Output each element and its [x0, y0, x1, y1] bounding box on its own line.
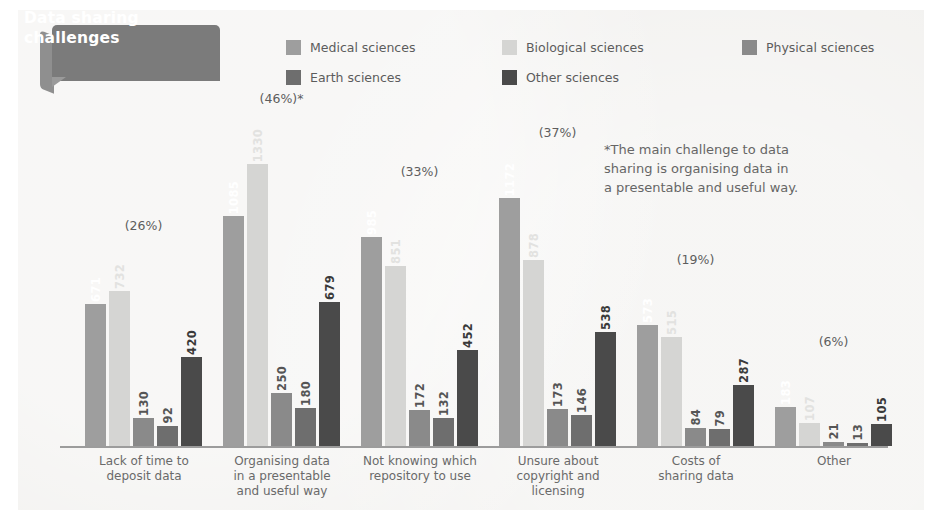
x-axis-line	[60, 446, 888, 448]
legend-item-other: Other sciences	[502, 70, 619, 85]
bar-rect-other[interactable]	[181, 357, 202, 446]
bar-value-label: 21	[827, 423, 841, 440]
chart-annotation: *The main challenge to data sharing is o…	[604, 140, 904, 197]
bar-value-label: 671	[89, 277, 103, 302]
bar-rect-other[interactable]	[871, 424, 892, 446]
legend-item-medical: Medical sciences	[286, 40, 415, 55]
bar-earth[interactable]: 92	[157, 110, 178, 446]
bar-value-label: 420	[185, 330, 199, 355]
bar-rect-biological[interactable]	[799, 423, 820, 446]
bar-rect-medical[interactable]	[85, 304, 106, 446]
legend-swatch-other	[502, 70, 517, 85]
bar-physical[interactable]: 250	[271, 110, 292, 446]
bar-other[interactable]: 452	[457, 110, 478, 446]
bar-value-label: 180	[299, 381, 313, 406]
x-axis-label: Lack of time to deposit data	[74, 454, 214, 484]
bar-other[interactable]: 679	[319, 110, 340, 446]
bar-value-label: 146	[575, 388, 589, 413]
bar-value-label: 183	[779, 380, 793, 405]
bar-rect-other[interactable]	[457, 350, 478, 446]
bar-rect-physical[interactable]	[133, 418, 154, 446]
bar-rect-earth[interactable]	[433, 418, 454, 446]
legend-swatch-biological	[502, 40, 517, 55]
bar-rect-biological[interactable]	[661, 337, 682, 446]
bar-physical[interactable]: 130	[133, 110, 154, 446]
legend-label-earth: Earth sciences	[310, 70, 401, 85]
bar-earth[interactable]: 146	[571, 110, 592, 446]
bar-biological[interactable]: 851	[385, 110, 406, 446]
bar-set: 985851172132452	[361, 110, 478, 446]
bar-rect-physical[interactable]	[271, 393, 292, 446]
bar-rect-biological[interactable]	[247, 164, 268, 446]
legend-item-biological: Biological sciences	[502, 40, 644, 55]
bar-value-label: 985	[365, 210, 379, 235]
bar-value-label: 92	[161, 407, 175, 424]
bar-value-label: 250	[275, 366, 289, 391]
chart-legend: Medical sciencesBiological sciencesPhysi…	[286, 40, 886, 96]
bar-biological[interactable]: 732	[109, 110, 130, 446]
chart-title: Data sharing challenges	[24, 8, 180, 48]
bar-rect-physical[interactable]	[547, 409, 568, 446]
bar-value-label: 878	[527, 233, 541, 258]
bar-other[interactable]: 420	[181, 110, 202, 446]
bar-rect-medical[interactable]	[499, 198, 520, 446]
bar-rect-physical[interactable]	[409, 410, 430, 446]
legend-item-earth: Earth sciences	[286, 70, 401, 85]
bar-value-label: 84	[689, 409, 703, 426]
bar-value-label: 130	[137, 391, 151, 416]
bar-value-label: 132	[437, 391, 451, 416]
group-percentage: (37%)	[499, 125, 616, 140]
bar-rect-earth[interactable]	[295, 408, 316, 446]
bar-physical[interactable]: 173	[547, 110, 568, 446]
bar-biological[interactable]: 878	[523, 110, 544, 446]
legend-item-physical: Physical sciences	[742, 40, 874, 55]
bar-value-label: 573	[641, 298, 655, 323]
bar-value-label: 1085	[227, 181, 241, 214]
x-axis-label: Organising data in a presentable and use…	[212, 454, 352, 499]
bar-rect-biological[interactable]	[109, 291, 130, 446]
bar-medical[interactable]: 671	[85, 110, 106, 446]
bar-rect-earth[interactable]	[709, 429, 730, 446]
bar-rect-medical[interactable]	[361, 237, 382, 446]
bar-value-label: 515	[665, 310, 679, 335]
bar-rect-other[interactable]	[733, 385, 754, 446]
x-axis-label: Unsure about copyright and licensing	[488, 454, 628, 499]
ribbon-fold	[52, 77, 66, 87]
bar-value-label: 13	[851, 424, 865, 441]
group-percentage: (6%)	[775, 334, 892, 349]
bar-earth[interactable]: 180	[295, 110, 316, 446]
bar-rect-other[interactable]	[595, 332, 616, 446]
bar-rect-biological[interactable]	[523, 260, 544, 446]
legend-label-other: Other sciences	[526, 70, 619, 85]
bar-value-label: 851	[389, 239, 403, 264]
bar-biological[interactable]: 1330	[247, 110, 268, 446]
bar-value-label: 538	[599, 305, 613, 330]
legend-swatch-medical	[286, 40, 301, 55]
legend-label-physical: Physical sciences	[766, 40, 874, 55]
bar-rect-physical[interactable]	[685, 428, 706, 446]
bar-rect-medical[interactable]	[775, 407, 796, 446]
bar-rect-medical[interactable]	[223, 216, 244, 446]
x-axis-label: Other	[764, 454, 904, 469]
bar-rect-earth[interactable]	[847, 443, 868, 446]
bar-medical[interactable]: 1172	[499, 110, 520, 446]
bar-value-label: 79	[713, 410, 727, 427]
bar-medical[interactable]: 1085	[223, 110, 244, 446]
bar-rect-earth[interactable]	[157, 426, 178, 446]
bar-value-label: 1172	[503, 163, 517, 196]
bar-rect-biological[interactable]	[385, 266, 406, 446]
legend-swatch-physical	[742, 40, 757, 55]
bar-rect-earth[interactable]	[571, 415, 592, 446]
bar-set: 1172878173146538	[499, 110, 616, 446]
bar-physical[interactable]: 172	[409, 110, 430, 446]
bar-rect-medical[interactable]	[637, 325, 658, 446]
group-percentage: (33%)	[361, 164, 478, 179]
bar-rect-other[interactable]	[319, 302, 340, 446]
bar-medical[interactable]: 985	[361, 110, 382, 446]
bar-value-label: 287	[737, 358, 751, 383]
bar-set: 10851330250180679	[223, 110, 340, 446]
bar-rect-physical[interactable]	[823, 442, 844, 446]
bar-earth[interactable]: 132	[433, 110, 454, 446]
bar-value-label: 732	[113, 264, 127, 289]
bar-value-label: 173	[551, 382, 565, 407]
